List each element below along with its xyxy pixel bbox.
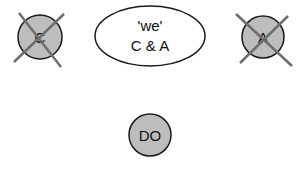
node-do-label: DO bbox=[139, 127, 162, 144]
node-a: A bbox=[236, 14, 292, 66]
node-c: C bbox=[14, 13, 64, 67]
diagram-canvas: C 'we' C & A A DO bbox=[0, 0, 299, 170]
node-do: DO bbox=[129, 114, 171, 156]
node-we-ellipse bbox=[95, 6, 205, 66]
node-we: 'we' C & A bbox=[95, 6, 205, 66]
node-we-label-line1: 'we' bbox=[138, 17, 163, 34]
node-we-label-line2: C & A bbox=[131, 37, 169, 54]
